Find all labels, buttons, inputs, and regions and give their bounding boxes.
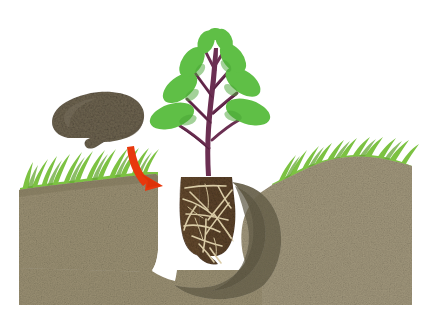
illustration-canvas (0, 0, 430, 321)
planting-illustration: Planting a seedling in a prepared hole (0, 0, 430, 321)
dirt-clod (52, 92, 144, 149)
